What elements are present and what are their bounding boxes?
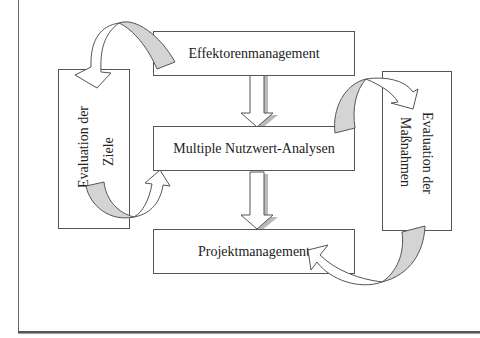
diagram-curved-arrows bbox=[0, 0, 480, 338]
curved-arrow-icon bbox=[308, 226, 425, 285]
curved-arrow-icon bbox=[86, 170, 170, 218]
curved-arrow-icon bbox=[75, 22, 175, 88]
curved-arrow-icon bbox=[335, 78, 418, 133]
